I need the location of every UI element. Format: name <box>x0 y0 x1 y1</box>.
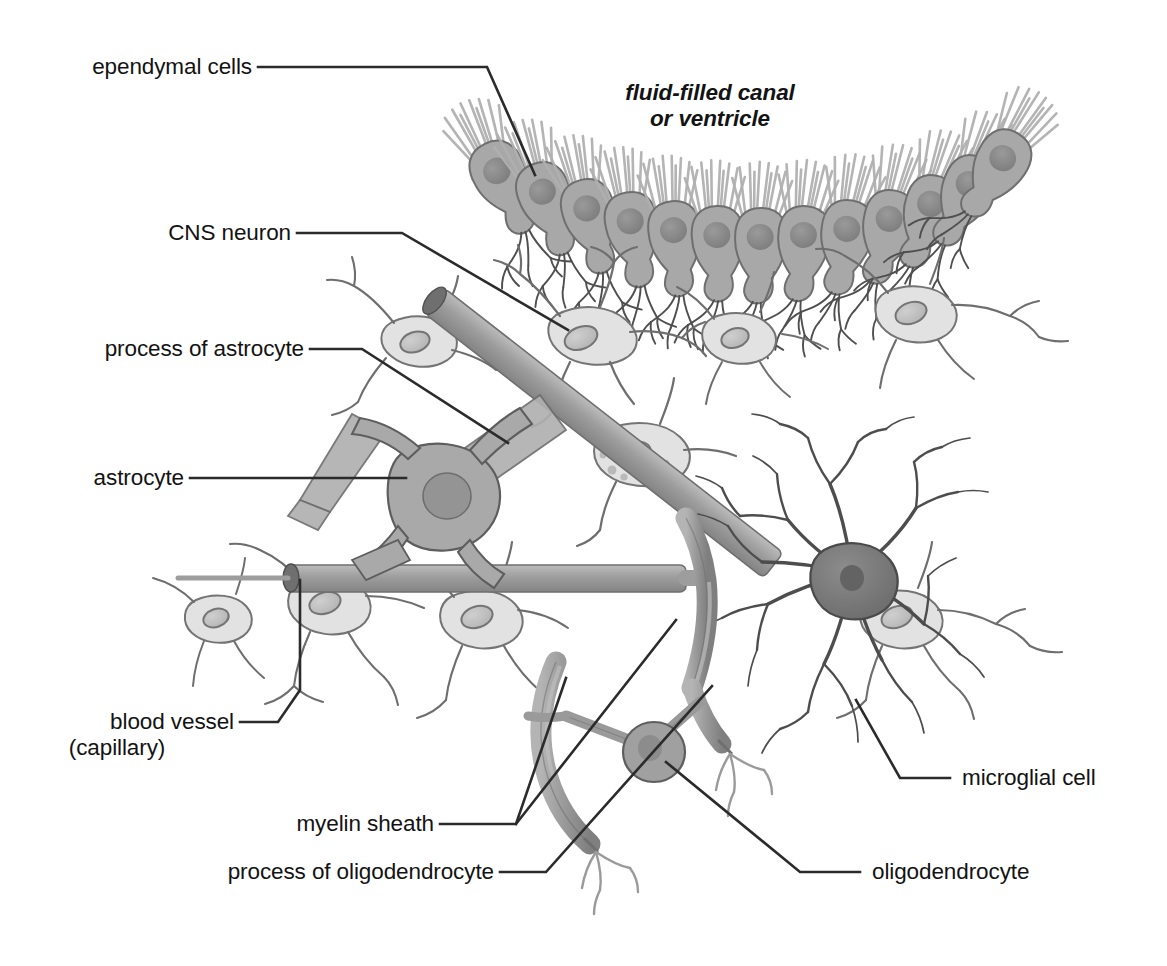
label-blood-vessel-line2: (capillary) <box>0 735 234 761</box>
diagram-canvas: ependymal cells fluid-filled canal or ve… <box>0 0 1167 966</box>
label-astrocyte: astrocyte <box>0 465 184 491</box>
label-cns-neuron: CNS neuron <box>0 220 291 246</box>
label-oligodendrocyte: oligodendrocyte <box>872 859 1152 885</box>
label-ependymal-cells: ependymal cells <box>0 54 252 80</box>
label-fluid-filled-canal-line1: fluid-filled canal <box>580 80 840 106</box>
label-microglial-cell: microglial cell <box>962 765 1167 791</box>
label-process-of-astrocyte: process of astrocyte <box>0 336 304 362</box>
label-myelin-sheath: myelin sheath <box>0 811 434 837</box>
label-blood-vessel-line1: blood vessel <box>0 709 234 735</box>
label-process-of-oligodendrocyte: process of oligodendrocyte <box>0 859 494 885</box>
label-fluid-filled-canal-line2: or ventricle <box>580 106 840 132</box>
